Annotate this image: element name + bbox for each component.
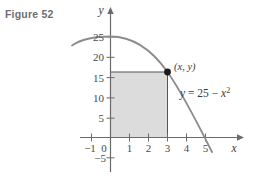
y-axis-arrowhead <box>107 7 113 14</box>
y-axis-label: y <box>97 4 104 17</box>
x-axis-label: x <box>230 142 237 154</box>
y-tick-label-10: 10 <box>93 92 105 104</box>
x-tick-label-1: 1 <box>127 142 133 154</box>
figure-panel: Figure 52 25 20 15 10 <box>0 0 262 188</box>
x-tick-label-4: 4 <box>184 142 190 154</box>
y-tick-label-5: 5 <box>99 112 105 124</box>
data-point-marker <box>164 69 171 76</box>
equation-label: y = 25 − x2 <box>179 86 230 100</box>
point-label: (x, y) <box>174 61 196 73</box>
shaded-rectangle <box>111 72 168 137</box>
x-tick-label-2: 2 <box>146 142 152 154</box>
x-axis-arrowhead <box>237 134 244 140</box>
x-tick-label--1: −1 <box>84 142 96 154</box>
y-tick-label-20: 20 <box>93 51 105 63</box>
x-tick-label-5: 5 <box>203 142 209 154</box>
y-tick-label-15: 15 <box>93 72 105 84</box>
graph-canvas: 25 20 15 10 5 −5 0 −1 1 2 3 4 5 y x (x, … <box>0 0 262 188</box>
x-tick-label-3: 3 <box>165 142 171 154</box>
origin-label: 0 <box>101 142 107 154</box>
y-tick-label-25: 25 <box>93 31 105 43</box>
